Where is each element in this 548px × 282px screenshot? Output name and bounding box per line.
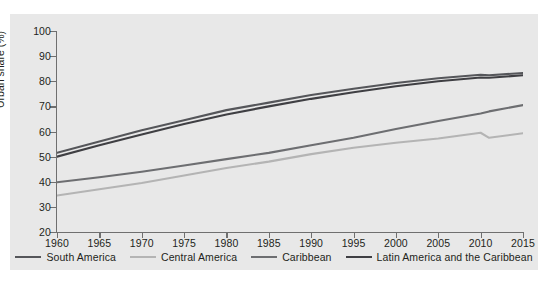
series-line bbox=[57, 73, 523, 153]
x-axis-line bbox=[56, 232, 524, 233]
y-axis-title: Urban share (%) bbox=[0, 31, 6, 108]
y-tick-label: 100 bbox=[7, 25, 51, 37]
legend-item[interactable]: South America bbox=[15, 251, 116, 263]
y-tick-label: 70 bbox=[7, 100, 51, 112]
legend-label: South America bbox=[46, 251, 116, 263]
chart-figure: 2030405060708090100 19601965197019751980… bbox=[0, 0, 548, 282]
chart-legend: South AmericaCentral AmericaCaribbeanLat… bbox=[10, 248, 538, 266]
legend-swatch-icon bbox=[346, 256, 372, 259]
y-tick-label: 50 bbox=[7, 151, 51, 163]
y-tick-label: 90 bbox=[7, 50, 51, 62]
legend-swatch-icon bbox=[130, 256, 156, 259]
y-tick-label: 30 bbox=[7, 201, 51, 213]
y-tick-label: 80 bbox=[7, 75, 51, 87]
series-group bbox=[57, 73, 523, 196]
legend-item[interactable]: Caribbean bbox=[251, 251, 331, 263]
legend-label: Central America bbox=[161, 251, 237, 263]
y-tick-label: 40 bbox=[7, 176, 51, 188]
chart-plot-area bbox=[57, 31, 523, 232]
legend-item[interactable]: Latin America and the Caribbean bbox=[346, 251, 533, 263]
legend-swatch-icon bbox=[15, 256, 41, 259]
legend-swatch-icon bbox=[251, 256, 277, 259]
legend-label: Caribbean bbox=[282, 251, 331, 263]
series-line bbox=[57, 75, 523, 156]
legend-label: Latin America and the Caribbean bbox=[377, 251, 533, 263]
series-line bbox=[57, 133, 523, 196]
y-tick-label: 60 bbox=[7, 126, 51, 138]
legend-item[interactable]: Central America bbox=[130, 251, 237, 263]
series-line bbox=[57, 105, 523, 182]
